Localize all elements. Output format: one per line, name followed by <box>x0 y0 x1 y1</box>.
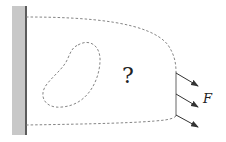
applied-forces <box>176 73 198 127</box>
body-boundary <box>26 17 176 125</box>
internal-hole <box>43 42 100 107</box>
design-domain-diagram: ? F <box>0 0 226 142</box>
force-label: F <box>202 91 213 106</box>
fixed-wall <box>12 6 26 135</box>
force-arrow-1 <box>176 73 198 86</box>
force-arrow-2 <box>176 94 198 107</box>
force-arrow-3 <box>176 115 198 127</box>
question-mark: ? <box>122 63 134 88</box>
